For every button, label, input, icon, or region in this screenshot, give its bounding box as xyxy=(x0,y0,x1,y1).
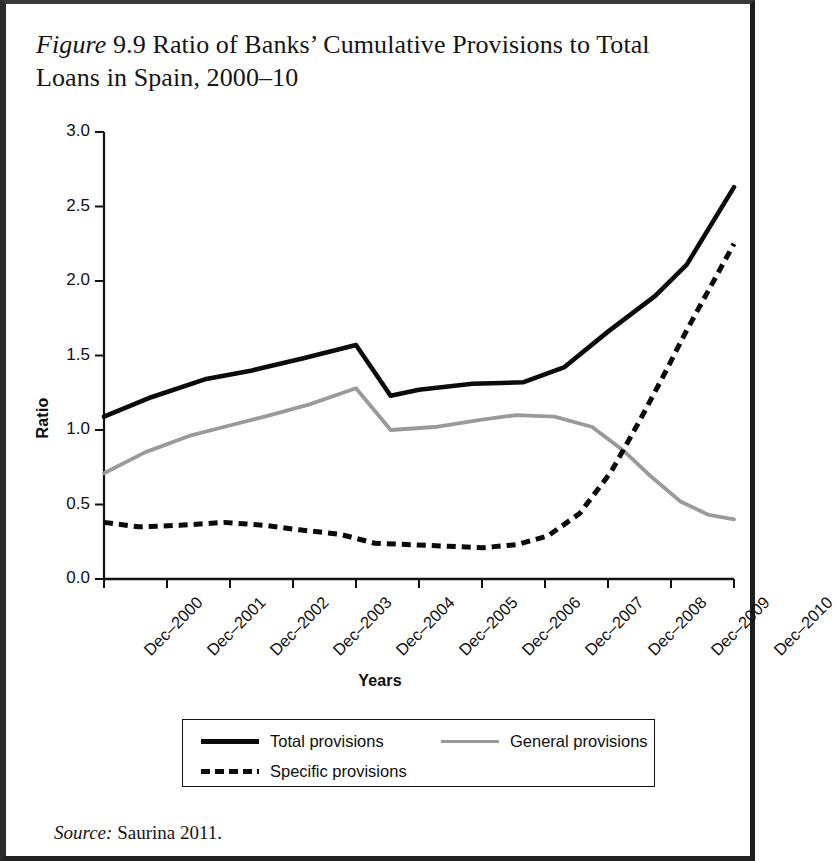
legend-swatch-icon xyxy=(201,734,259,748)
y-axis-ticks xyxy=(95,132,104,579)
series-line-specific-provisions xyxy=(104,244,734,548)
legend-swatch-icon xyxy=(441,734,499,748)
legend-item[interactable]: Total provisions xyxy=(201,730,384,752)
axes-group xyxy=(95,132,734,588)
legend-swatch-icon xyxy=(201,764,259,778)
data-series-group xyxy=(104,187,734,548)
x-axis-tick-label: Dec–2010 xyxy=(770,593,837,660)
legend-item[interactable]: General provisions xyxy=(441,730,648,752)
legend-label: Specific provisions xyxy=(270,762,407,781)
legend-label: General provisions xyxy=(510,732,648,751)
figure-number: 9.9 xyxy=(113,30,146,59)
figure-label: Figure xyxy=(36,30,106,59)
figure-title: Figure 9.9 Ratio of Banks’ Cumulative Pr… xyxy=(36,28,696,94)
x-axis-ticks xyxy=(104,579,734,588)
page-background: Figure 9.9 Ratio of Banks’ Cumulative Pr… xyxy=(6,4,750,856)
chart-area: Ratio 0.00.51.01.52.02.53.0 Dec–2000Dec–… xyxy=(6,109,754,709)
legend-item[interactable]: Specific provisions xyxy=(201,760,407,782)
plot-svg xyxy=(6,109,754,709)
series-line-total-provisions xyxy=(104,187,734,416)
legend-label: Total provisions xyxy=(270,732,384,751)
series-line-general-provisions xyxy=(104,388,734,519)
legend-box: Total provisionsGeneral provisionsSpecif… xyxy=(182,719,655,787)
source-note: Source: Saurina 2011. xyxy=(54,822,222,844)
source-label: Source: xyxy=(54,822,112,843)
source-text: Saurina 2011. xyxy=(117,822,222,843)
